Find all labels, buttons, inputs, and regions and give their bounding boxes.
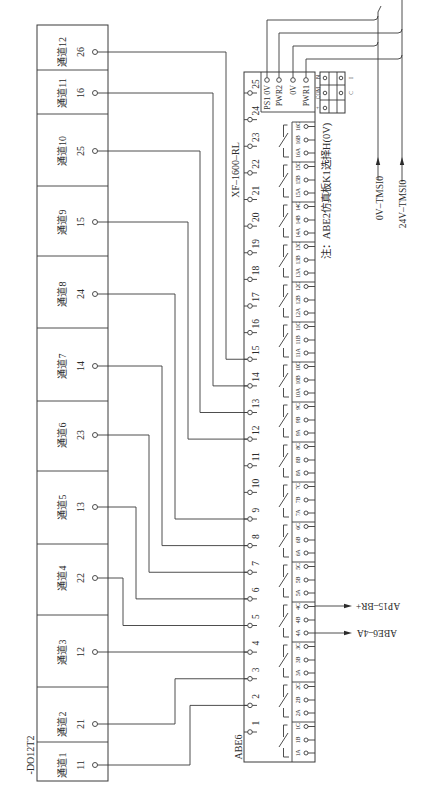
relay-dot bbox=[304, 218, 308, 222]
relay-contact-icon bbox=[279, 165, 289, 197]
terminal-6: 6 bbox=[244, 587, 261, 601]
relay-contact-icon bbox=[279, 645, 289, 677]
terminal-number: 25 bbox=[251, 79, 261, 89]
channel-dividers bbox=[37, 70, 108, 742]
power-terminal-dot bbox=[304, 78, 309, 83]
terminal-9: 9 bbox=[244, 507, 261, 521]
relay-contact-icon bbox=[279, 565, 289, 597]
relay-dot bbox=[304, 271, 308, 275]
wire-ch6-t7 bbox=[98, 435, 248, 572]
relay-12: 12A 12B 12C bbox=[279, 282, 315, 318]
do-module: -DO12T2 通道1 11 通道2 21 通道3 12 通道4 22 通道5 … bbox=[25, 25, 109, 781]
channel-row-2: 通道2 21 bbox=[56, 712, 98, 737]
terminal-18: 18 bbox=[244, 265, 261, 281]
relay-pin-c: 4C bbox=[295, 603, 301, 610]
channel-name: 通道4 bbox=[56, 566, 68, 591]
relay-contact-icon bbox=[279, 685, 289, 717]
channel-row-12: 通道12 26 bbox=[56, 37, 98, 67]
channel-name: 通道12 bbox=[56, 37, 68, 67]
terminal-dot bbox=[248, 543, 253, 548]
terminal-dot bbox=[248, 117, 253, 122]
relay-dot bbox=[304, 431, 308, 435]
channel-name: 通道11 bbox=[56, 78, 68, 108]
channel-pin: 11 bbox=[75, 760, 86, 770]
relay-pin-b: 13B bbox=[295, 255, 301, 264]
terminal-dot bbox=[248, 277, 253, 282]
terminal-dot bbox=[248, 330, 253, 335]
channel-row-7: 通道7 14 bbox=[56, 354, 98, 379]
relay-pin-c: 12C bbox=[295, 282, 301, 291]
relay-pin-b: 12B bbox=[295, 295, 301, 304]
relay-contact-icon bbox=[279, 605, 289, 637]
channel-terminal-dot bbox=[93, 149, 98, 154]
relay-11: 11A 11B 11C bbox=[279, 322, 315, 358]
channel-name: 通道5 bbox=[56, 495, 68, 520]
power-label-pwr1: PWR1 bbox=[302, 85, 311, 106]
channel-name: 通道2 bbox=[56, 712, 68, 737]
channel-row-11: 通道11 16 bbox=[56, 78, 98, 108]
relay-15: 15A 15B 15C bbox=[279, 162, 315, 198]
relay-pin-c: 6C bbox=[295, 523, 301, 530]
terminal-number: 12 bbox=[251, 425, 261, 435]
relay-10: 10A 10B 10C bbox=[279, 362, 315, 398]
terminal-dot bbox=[248, 730, 253, 735]
power-wires: 0V–TMSI0 24V–TMSI0 bbox=[267, 0, 408, 228]
terminal-15: 15 bbox=[244, 345, 261, 361]
power-label-pwr2: PWR2 bbox=[275, 85, 284, 106]
relay-contact-icon bbox=[279, 125, 289, 157]
channel-terminal-dot bbox=[93, 220, 98, 225]
relay-pin-b: 16B bbox=[295, 135, 301, 144]
terminal-number: 24 bbox=[251, 106, 261, 116]
relay-5: 5A 5B 5C bbox=[279, 562, 315, 597]
wire-ch1-t2 bbox=[98, 705, 248, 765]
wire-ch5-t6 bbox=[98, 507, 248, 599]
channel-terminal-dot bbox=[93, 650, 98, 655]
relay-pin-a: 5A bbox=[295, 589, 301, 597]
arrow-right-icon bbox=[344, 604, 352, 608]
channel-pin: 24 bbox=[75, 289, 86, 299]
relay-16: 16A 16B 16C bbox=[279, 122, 315, 158]
channel-row-8: 通道8 24 bbox=[56, 282, 98, 307]
relay-pin-b: 2B bbox=[295, 697, 301, 704]
channel-name: 通道8 bbox=[56, 282, 68, 307]
terminal-dot bbox=[248, 144, 253, 149]
relay-dot bbox=[304, 418, 308, 422]
terminal-8: 8 bbox=[244, 534, 261, 548]
channel-terminal-dot bbox=[93, 576, 98, 581]
relay-contact-icon bbox=[279, 325, 289, 357]
relay-pin-c: 16C bbox=[295, 122, 301, 131]
channel-name: 通道1 bbox=[56, 753, 68, 778]
relay-pin-c: 1C bbox=[295, 723, 301, 730]
relay-dot bbox=[304, 245, 308, 249]
channel-name: 通道10 bbox=[56, 136, 68, 166]
relay-dot bbox=[304, 231, 308, 235]
terminal-number: 23 bbox=[251, 132, 261, 142]
terminal-number: 17 bbox=[251, 292, 261, 302]
relay-contact-icon bbox=[279, 525, 289, 557]
terminal-number: 2 bbox=[251, 694, 261, 699]
relay-pin-a: 15A bbox=[295, 187, 301, 197]
relay-pin-a: 1A bbox=[295, 749, 301, 757]
relay-dot bbox=[304, 671, 308, 675]
relay-pin-a: 12A bbox=[295, 307, 301, 317]
channel-pin: 12 bbox=[75, 647, 86, 657]
relay-dot bbox=[304, 138, 308, 142]
wire-pwr2 bbox=[279, 29, 402, 78]
relay-dot bbox=[304, 631, 308, 635]
relay-dot bbox=[304, 165, 308, 169]
channel-terminal-dot bbox=[93, 722, 98, 727]
channel-terminal-dot bbox=[93, 91, 98, 96]
terminal-11: 11 bbox=[244, 452, 261, 468]
relay-pin-c: 2C bbox=[295, 683, 301, 690]
terminal-number: 11 bbox=[251, 452, 261, 461]
selector-switch: N COM + I C bbox=[315, 72, 355, 113]
relay-pin-b: 1B bbox=[295, 737, 301, 744]
terminal-dot bbox=[248, 570, 253, 575]
terminal-13: 13 bbox=[244, 399, 261, 415]
relay-dot bbox=[304, 205, 308, 209]
terminal-number: 13 bbox=[251, 399, 261, 409]
relay-dot bbox=[304, 485, 308, 489]
terminal-number: 9 bbox=[251, 507, 261, 512]
relay-contact-icon bbox=[279, 285, 289, 317]
relay-pin-b: 8B bbox=[295, 457, 301, 464]
